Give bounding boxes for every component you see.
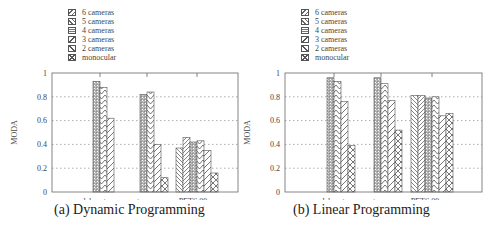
x-axis-ticks: laboratory terrace PETS 09 — [84, 197, 208, 200]
svg-text:PETS 09: PETS 09 — [411, 197, 440, 200]
svg-text:0: 0 — [43, 188, 47, 197]
svg-text:1: 1 — [43, 69, 47, 78]
bar-group-laboratory — [327, 78, 355, 192]
svg-text:terrace: terrace — [137, 197, 159, 200]
svg-text:1: 1 — [276, 69, 280, 78]
panel-linear-programming: 6 cameras 5 cameras 4 cameras 3 cameras … — [245, 0, 489, 235]
chart-caption: (b) Linear Programming — [293, 202, 430, 218]
chart-caption: (a) Dynamic Programming — [54, 202, 205, 218]
svg-text:laboratory: laboratory — [84, 197, 117, 200]
svg-text:0.4: 0.4 — [37, 140, 47, 149]
y-axis-ticks: 0 0.2 0.4 0.6 0.8 1 — [37, 69, 47, 197]
chart-plot-area: 0 0.2 0.4 0.6 0.8 1 — [245, 0, 489, 200]
svg-text:PETS 09: PETS 09 — [179, 197, 208, 200]
y-axis-ticks: 0 0.2 0.4 0.6 0.8 1 — [270, 69, 280, 197]
svg-text:0.8: 0.8 — [270, 93, 280, 102]
bar-group-laboratory — [93, 81, 114, 192]
svg-text:terrace: terrace — [373, 197, 395, 200]
bar-group-pets09 — [176, 137, 218, 192]
svg-text:0.2: 0.2 — [37, 164, 47, 173]
bar-group-pets09 — [411, 96, 453, 192]
bar-group-terrace — [374, 78, 402, 192]
svg-text:0.4: 0.4 — [270, 140, 280, 149]
svg-text:0.6: 0.6 — [270, 116, 280, 125]
panel-dynamic-programming: 6 cameras 5 cameras 4 cameras 3 cameras … — [0, 0, 245, 235]
svg-text:laboratory: laboratory — [323, 197, 356, 200]
svg-text:0: 0 — [276, 188, 280, 197]
svg-text:0.2: 0.2 — [270, 164, 280, 173]
bar-group-terrace — [140, 92, 168, 192]
x-axis-ticks: laboratory terrace PETS 09 — [323, 197, 440, 200]
svg-text:0.8: 0.8 — [37, 93, 47, 102]
svg-text:0.6: 0.6 — [37, 116, 47, 125]
chart-plot-area: 0 0.2 0.4 0.6 0.8 1 — [0, 0, 245, 200]
